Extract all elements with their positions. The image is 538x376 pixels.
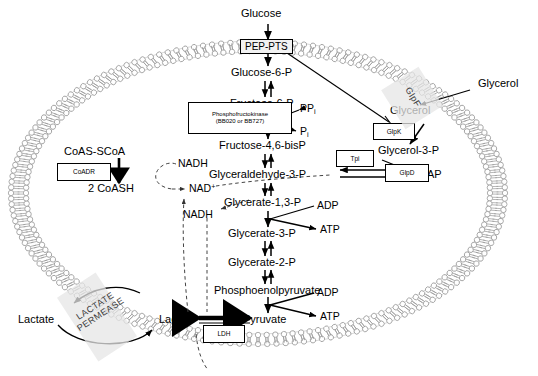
- metabolite-glycerate-1-3-p: Glycerate-1,3-P: [224, 197, 301, 208]
- metabolite-coas-scoa: CoAS-SCoA: [64, 146, 125, 157]
- metabolite-fructose-1-6-bisp: Fructose-4,6-bisP: [219, 140, 306, 151]
- metabolite-glycerol-3-p: Glycerol-3-P: [378, 145, 439, 156]
- cofactor-atp-2: ATP: [320, 311, 340, 322]
- cofactor-nadh-2: NADH: [183, 209, 213, 220]
- enzyme-box-tpi[interactable]: Tpi: [336, 150, 374, 167]
- cofactor-ppi: PPi: [300, 103, 316, 116]
- metabolite-glucose-extracellular: Glucose: [241, 8, 281, 19]
- metabolite-glycerol-extracellular: Glycerol: [478, 78, 518, 89]
- enzyme-box-glpd[interactable]: GlpD: [385, 164, 429, 182]
- enzyme-box-coadr[interactable]: CoADR: [57, 163, 111, 181]
- cofactor-atp-1: ATP: [320, 224, 340, 235]
- metabolite-phosphoenolpyruvate: Phosphoenolpyruvate: [214, 285, 320, 296]
- pathway-diagram-figure: Glucose Glucose-6-P Fructose-6-P Fructos…: [0, 0, 538, 376]
- cofactor-adp-1: ADP: [317, 200, 339, 211]
- phosphofructokinase-genes: (BB020 or BB727): [216, 118, 265, 125]
- cofactor-adp-2: ADP: [317, 287, 339, 298]
- cofactor-nadh-1: NADH: [178, 158, 208, 169]
- cofactor-pi: Pi: [300, 126, 309, 139]
- enzyme-box-phosphofructokinase[interactable]: Phosphofructokinase (BB020 or BB727): [188, 102, 292, 134]
- enzyme-box-ldh[interactable]: LDH: [203, 325, 245, 343]
- metabolite-glyceraldehyde-3-p: Glyceraldehyde-3-P: [209, 169, 306, 180]
- metabolite-2-coash: 2 CoASH: [88, 183, 134, 194]
- phosphofructokinase-name: Phosphofructokinase: [212, 111, 268, 118]
- metabolite-glycerate-3-p: Glycerate-3-P: [228, 228, 296, 239]
- metabolite-glycerate-2-p: Glycerate-2-P: [228, 257, 296, 268]
- metabolite-glucose-6-p: Glucose-6-P: [231, 67, 292, 78]
- transporter-pep-pts[interactable]: PEP-PTS: [240, 39, 293, 54]
- metabolite-lactate-intracellular: Lactate: [159, 314, 195, 325]
- metabolite-pyruvate: Pyruvate: [243, 314, 286, 325]
- cofactor-nad-plus: NAD+: [189, 183, 215, 194]
- metabolite-lactate-extracellular: Lactate: [18, 314, 54, 325]
